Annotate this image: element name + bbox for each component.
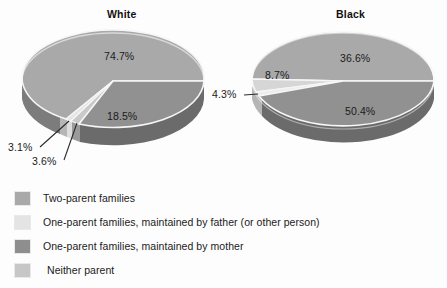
label-white-two-parent: 74.7% — [104, 50, 134, 62]
legend-swatch-mother — [14, 239, 31, 254]
pie-black — [244, 32, 434, 143]
legend: Two-parent families One-parent families,… — [14, 186, 434, 282]
chart-canvas: White Black — [0, 0, 447, 288]
legend-swatch-father — [14, 215, 31, 230]
legend-label-neither: Neither parent — [47, 264, 114, 276]
legend-label-father: One-parent families, maintained by fathe… — [43, 216, 320, 228]
legend-item-father: One-parent families, maintained by fathe… — [14, 210, 434, 234]
label-black-neither: 8.7% — [265, 69, 289, 81]
label-white-father: 3.1% — [8, 141, 32, 153]
legend-label-mother: One-parent families, maintained by mothe… — [43, 240, 243, 252]
legend-item-neither: Neither parent — [14, 258, 434, 282]
legend-label-two-parent: Two-parent families — [43, 192, 135, 204]
label-white-mother: 18.5% — [107, 110, 137, 122]
legend-swatch-two-parent — [14, 191, 31, 206]
label-black-mother: 50.4% — [345, 105, 375, 117]
legend-item-two-parent: Two-parent families — [14, 186, 434, 210]
legend-item-mother: One-parent families, maintained by mothe… — [14, 234, 434, 258]
label-black-father: 4.3% — [212, 88, 236, 100]
label-white-neither: 3.6% — [32, 155, 56, 167]
label-black-two-parent: 36.6% — [340, 52, 370, 64]
legend-swatch-neither — [14, 263, 31, 278]
